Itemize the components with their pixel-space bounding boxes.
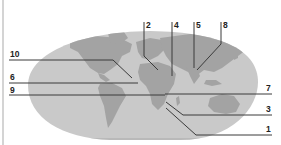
antarctica-landmass [60, 138, 240, 145]
label-1: 1 [266, 124, 271, 134]
label-4: 4 [174, 20, 179, 30]
label-10: 10 [10, 49, 20, 59]
left-border-rule [2, 0, 4, 145]
map-svg: 10 6 9 7 3 1 2 4 5 8 [0, 0, 281, 145]
label-9: 9 [10, 85, 15, 95]
label-3: 3 [266, 104, 271, 114]
world-map-diagram: 10 6 9 7 3 1 2 4 5 8 [0, 0, 281, 145]
label-7: 7 [266, 83, 271, 93]
label-2: 2 [146, 20, 151, 30]
label-5: 5 [196, 20, 201, 30]
label-8: 8 [223, 20, 228, 30]
label-6: 6 [10, 72, 15, 82]
